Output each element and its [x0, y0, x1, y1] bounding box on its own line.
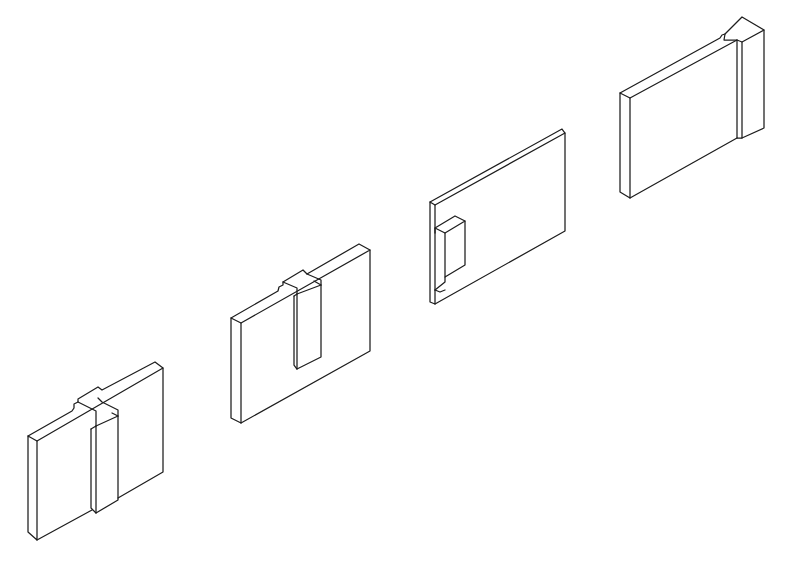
- panel-with-half-height-tongue-face: [231, 318, 241, 423]
- piece-1: [28, 362, 163, 540]
- panel-with-end-block-face: [742, 30, 764, 138]
- panel-with-end-block-face: [620, 93, 630, 198]
- panel-with-full-height-tongue-face: [28, 436, 37, 540]
- panel-with-full-height-tongue-face: [37, 368, 163, 540]
- diagram-canvas: [0, 0, 795, 562]
- panel-with-end-block-edge: [724, 34, 737, 40]
- panel-with-end-block-face: [630, 40, 737, 198]
- piece-4: [620, 17, 764, 198]
- piece-3: [430, 129, 565, 304]
- panel-with-half-height-tongue-face: [241, 250, 370, 423]
- panel-with-end-block-edge: [737, 40, 742, 138]
- piece-2: [231, 244, 370, 423]
- panel-with-stub-tongue-face: [430, 202, 435, 304]
- panel-with-stub-tongue-face: [435, 133, 565, 304]
